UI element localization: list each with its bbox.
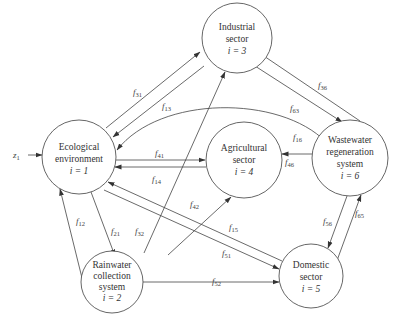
label-f21: f21	[111, 226, 120, 237]
node-3-index: i = 3	[228, 46, 247, 56]
label-f63: f63	[290, 103, 299, 114]
node-4-line-1: Agricultural	[221, 143, 268, 153]
node-5-line-1: Domestic	[293, 260, 329, 270]
label-f42: f42	[190, 199, 199, 210]
node-2-index: i = 2	[103, 293, 122, 303]
water-flow-network-diagram: z1 f31 f13 f36 f63 f16 f41 f14 f46 f12 f…	[0, 0, 407, 318]
label-f46: f46	[285, 157, 295, 168]
node-2-line-2: collection	[93, 271, 131, 281]
node-ecological-environment: Ecological environment i = 1	[42, 120, 116, 194]
label-f14: f14	[152, 174, 162, 185]
edge-f42	[168, 197, 231, 255]
label-f51: f51	[222, 248, 231, 259]
node-6-line-1: Wastewater	[328, 135, 373, 145]
label-f32: f32	[135, 226, 144, 237]
node-5-line-2: sector	[300, 272, 324, 282]
node-4-index: i = 4	[235, 167, 254, 177]
label-f31: f31	[133, 87, 142, 98]
node-industrial-sector: Industrial sector i = 3	[202, 3, 272, 73]
label-f52: f52	[212, 276, 221, 287]
nodes-layer: Ecological environment i = 1 Rainwater c…	[42, 3, 388, 313]
input-label-z1: z1	[12, 150, 20, 161]
node-2-line-3: system	[99, 282, 126, 292]
node-domestic-sector: Domestic sector i = 5	[279, 244, 343, 308]
node-5-index: i = 5	[302, 284, 321, 294]
label-f12: f12	[76, 216, 85, 227]
node-rainwater-collection-system: Rainwater collection system i = 2	[81, 251, 143, 313]
node-6-line-2: regeneration	[326, 147, 374, 157]
label-f36: f36	[318, 80, 328, 91]
label-f56: f56	[323, 216, 333, 227]
label-f15: f15	[229, 222, 238, 233]
node-2-line-1: Rainwater	[92, 260, 132, 270]
edge-f36	[258, 52, 360, 121]
edge-f13	[113, 66, 204, 137]
label-f65: f65	[355, 208, 364, 219]
node-3-line-1: Industrial	[219, 22, 256, 32]
label-f41: f41	[155, 148, 164, 159]
node-6-index: i = 6	[341, 171, 360, 181]
node-4-line-2: sector	[233, 155, 257, 165]
label-f16: f16	[293, 132, 303, 143]
node-1-line-1: Ecological	[59, 142, 100, 152]
node-3-line-2: sector	[226, 34, 250, 44]
edge-f31	[106, 52, 200, 128]
node-1-index: i = 1	[70, 166, 89, 176]
edge-f21	[91, 192, 115, 256]
node-agricultural-sector: Agricultural sector i = 4	[206, 122, 282, 198]
edge-f65	[335, 195, 361, 266]
edge-f12	[60, 189, 82, 278]
node-1-line-2: environment	[55, 154, 103, 164]
label-f13: f13	[162, 101, 171, 112]
node-6-line-3: system	[337, 159, 364, 169]
node-wastewater-regeneration-system: Wastewater regeneration system i = 6	[312, 120, 388, 196]
